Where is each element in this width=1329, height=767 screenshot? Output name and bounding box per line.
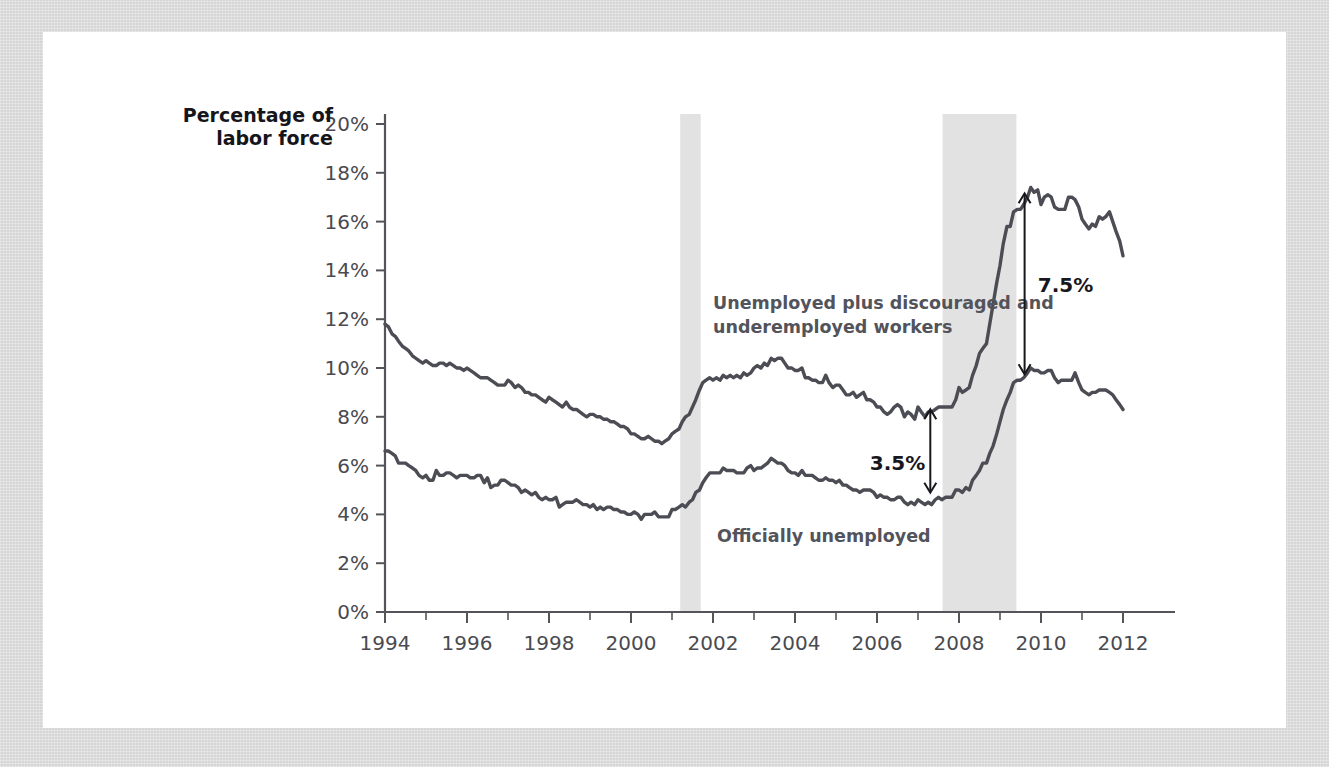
x-ticks-group: 1994199619982000200220042006200820102012: [360, 612, 1149, 655]
y-tick-label: 6%: [337, 454, 369, 478]
y-tick-label: 18%: [325, 161, 369, 185]
y-axis-title-line1: Percentage of: [183, 104, 334, 126]
x-tick-label: 1996: [442, 631, 493, 655]
recession-2008: [943, 114, 1017, 612]
y-tick-label: 8%: [337, 405, 369, 429]
series-label-u3: Officially unemployed: [717, 526, 930, 546]
gap-2007-label: 3.5%: [870, 451, 925, 475]
y-tick-label: 14%: [325, 258, 369, 282]
x-tick-label: 2006: [852, 631, 903, 655]
series-label-u6-line2: underemployed workers: [713, 317, 952, 337]
y-tick-label: 0%: [337, 600, 369, 624]
y-tick-label: 2%: [337, 551, 369, 575]
gap-2009-label: 7.5%: [1038, 273, 1093, 297]
y-tick-label: 16%: [325, 210, 369, 234]
y-axis-title-line2: labor force: [216, 127, 333, 149]
chart-figure: 0%2%4%6%8%10%12%14%16%18%20% 19941996199…: [43, 32, 1286, 728]
figure-page: 0%2%4%6%8%10%12%14%16%18%20% 19941996199…: [43, 32, 1286, 728]
y-ticks-group: 0%2%4%6%8%10%12%14%16%18%20%: [325, 112, 385, 624]
x-tick-label: 2004: [770, 631, 821, 655]
y-tick-label: 10%: [325, 356, 369, 380]
y-tick-label: 12%: [325, 307, 369, 331]
x-tick-label: 2002: [688, 631, 739, 655]
x-tick-label: 1998: [524, 631, 575, 655]
recession-2001: [680, 114, 701, 612]
x-tick-label: 1994: [360, 631, 411, 655]
y-tick-label: 4%: [337, 502, 369, 526]
unemployment-line-chart: 0%2%4%6%8%10%12%14%16%18%20% 19941996199…: [43, 32, 1286, 728]
x-tick-label: 2000: [606, 631, 657, 655]
x-tick-label: 2008: [934, 631, 985, 655]
series-label-u6-line1: Unemployed plus discouraged and: [713, 293, 1054, 313]
x-tick-label: 2012: [1098, 631, 1149, 655]
x-tick-label: 2010: [1016, 631, 1067, 655]
